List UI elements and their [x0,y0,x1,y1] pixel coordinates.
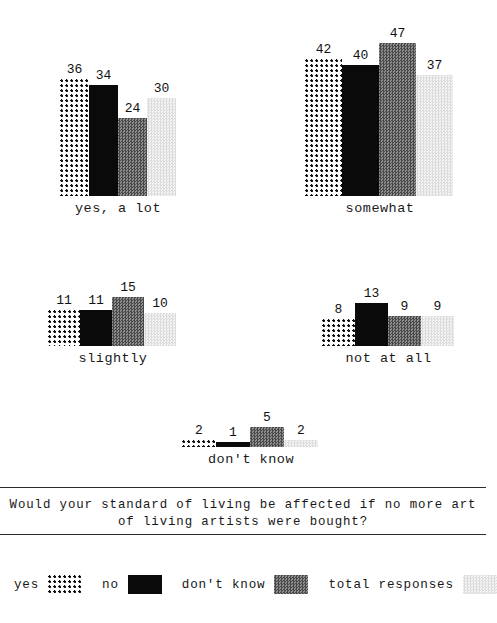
bar-slot: 10 [144,288,176,346]
bar-slot: 9 [388,288,421,346]
legend-swatch-total-responses [463,575,497,594]
legend-entry-dont-know: don't know [182,575,309,594]
legend-entry-yes: yes [14,575,82,594]
bar-group-yes-a-lot: 36 34 24 30 yes, a lot [60,70,176,218]
group-label-somewhat: somewhat [305,200,455,218]
legend: yes no don't know total responses [0,575,486,594]
bar-slot: 11 [80,288,112,346]
bar-no[interactable] [216,442,250,447]
legend-label: yes [14,578,39,592]
legend-swatch-no [128,575,162,594]
legend-label: total responses [328,578,453,592]
bars-row: 2 1 5 2 [182,415,318,447]
bar-no[interactable] [342,65,379,196]
question-block: Would your standard of living be affecte… [0,487,486,535]
bar-yes[interactable] [322,319,355,346]
bar-value: 47 [361,27,435,41]
chart-title: Would your standard of living be affecte… [0,488,486,534]
bar-slot: 30 [147,70,176,196]
divider-bottom [0,534,486,535]
bar-slot: 42 [305,40,342,196]
legend-label: don't know [182,578,266,592]
bars-row: 36 34 24 30 [60,70,176,196]
legend-swatch-yes [48,575,82,594]
bar-yes[interactable] [305,59,342,196]
bar-total-responses[interactable] [284,440,318,447]
bar-value: 10 [128,297,192,311]
group-label-yes-a-lot: yes, a lot [60,200,176,218]
bars-row: 8 13 9 9 [322,288,454,346]
bar-value: 2 [267,424,335,438]
bar-value: 37 [398,59,472,73]
legend-label: no [102,578,119,592]
bar-slot: 34 [89,70,118,196]
bar-slot: 37 [416,40,453,196]
bar-slot: 40 [342,40,379,196]
group-label-dont-know: don't know [182,451,320,469]
bar-total-responses[interactable] [144,313,176,346]
legend-swatch-dont-know [274,575,308,594]
bar-value: 9 [405,300,471,314]
bar-slot: 13 [355,288,388,346]
bar-slot: 36 [60,70,89,196]
group-label-not-at-all: not at all [322,350,455,368]
bar-yes[interactable] [48,310,80,346]
legend-entry-no: no [102,575,162,594]
bar-group-somewhat: 42 40 47 37 somewhat [305,40,455,218]
bar-slot: 2 [284,415,318,447]
bar-yes[interactable] [60,79,89,196]
legend-entry-total-responses: total responses [328,575,496,594]
bar-total-responses[interactable] [147,98,176,196]
bar-dont-know[interactable] [118,118,147,196]
bar-dont-know[interactable] [388,316,421,346]
bar-group-not-at-all: 8 13 9 9 not at all [322,288,455,368]
bar-yes[interactable] [182,440,216,447]
bar-total-responses[interactable] [416,75,453,196]
bar-slot: 9 [421,288,454,346]
bar-value: 30 [133,82,191,96]
bars-row: 11 11 15 10 [48,288,176,346]
bar-total-responses[interactable] [421,316,454,346]
bar-no[interactable] [80,310,112,346]
bar-group-dont-know: 2 1 5 2 don't know [182,415,320,469]
group-label-slightly: slightly [48,350,178,368]
bars-row: 42 40 47 37 [305,40,453,196]
bar-group-slightly: 11 11 15 10 slightly [48,288,178,368]
